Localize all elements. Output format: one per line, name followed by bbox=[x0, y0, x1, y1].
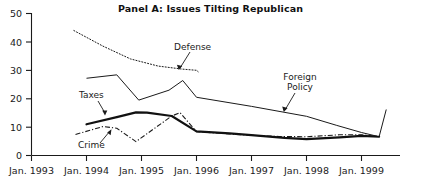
data-series-group bbox=[74, 31, 386, 142]
leader-line-defense bbox=[180, 52, 190, 68]
series-annotation-crime: Crime bbox=[78, 140, 105, 151]
series-annotation-defense: Defense bbox=[174, 42, 211, 53]
series-annotation-foreign-policy-line2: Policy bbox=[287, 82, 313, 92]
series-annotation-foreign-policy: Foreign Policy bbox=[278, 72, 322, 92]
xtick-label-jan-1994: Jan. 1994 bbox=[57, 165, 117, 176]
leader-line-foreign-policy bbox=[285, 93, 295, 110]
chart-plot-area bbox=[0, 0, 421, 183]
series-line-foreign-policy bbox=[87, 75, 377, 136]
series-annotation-taxes: Taxes bbox=[79, 90, 104, 101]
ytick-label-0: 0 bbox=[0, 150, 22, 161]
leader-arrowhead-taxes bbox=[102, 111, 107, 116]
leader-arrowhead-crime bbox=[107, 129, 111, 135]
ytick-label-30: 30 bbox=[0, 65, 22, 76]
series-line-right-edge-spike bbox=[379, 109, 386, 136]
chart-figure: Panel A: Issues Tilting Republican bbox=[0, 0, 421, 183]
series-annotation-foreign-policy-line1: Foreign bbox=[283, 72, 316, 82]
xtick-label-jan-1995: Jan. 1995 bbox=[112, 165, 172, 176]
ytick-label-40: 40 bbox=[0, 37, 22, 48]
ytick-label-50: 50 bbox=[0, 8, 22, 19]
ytick-label-10: 10 bbox=[0, 122, 22, 133]
xtick-label-jan-1996: Jan. 1996 bbox=[167, 165, 227, 176]
xtick-label-jan-1993: Jan. 1993 bbox=[2, 165, 62, 176]
xtick-label-jan-1998: Jan. 1998 bbox=[277, 165, 337, 176]
xtick-label-jan-1997: Jan. 1997 bbox=[222, 165, 282, 176]
ytick-label-20: 20 bbox=[0, 93, 22, 104]
xtick-label-jan-1999: Jan. 1999 bbox=[332, 165, 392, 176]
